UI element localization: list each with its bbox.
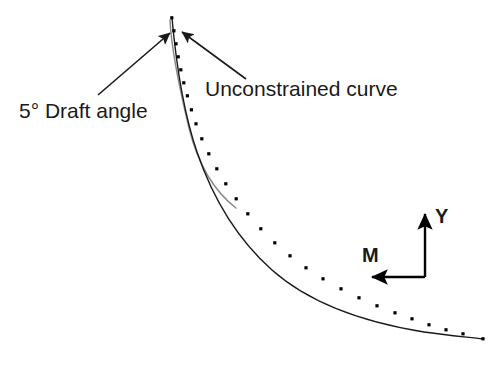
axis-label-m: M xyxy=(362,245,379,265)
curve-data-points xyxy=(170,16,484,340)
axis-label-y: Y xyxy=(435,206,448,226)
leader-line-draft-angle xyxy=(98,33,170,95)
label-draft-angle: 5° Draft angle xyxy=(19,100,148,121)
label-unconstrained-curve: Unconstrained curve xyxy=(205,78,398,99)
diagram-svg xyxy=(0,0,502,371)
axis-indicator xyxy=(372,214,425,277)
constrained-curve xyxy=(172,18,483,339)
leader-line-unconstrained xyxy=(182,32,246,79)
figure-canvas: 5° Draft angle Unconstrained curve Y M xyxy=(0,0,502,371)
